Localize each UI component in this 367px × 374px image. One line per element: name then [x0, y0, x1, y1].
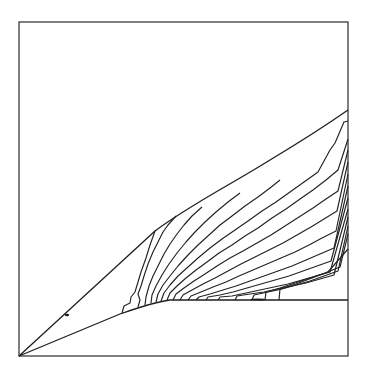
isoline-group [122, 121, 348, 313]
isoline [161, 121, 348, 301]
isoline [206, 198, 348, 300]
isoline [122, 231, 155, 313]
body-surface-line [19, 300, 348, 356]
shock-tick-mark [65, 314, 69, 317]
isoline [196, 186, 348, 300]
plot-frame [19, 22, 348, 356]
isoline [167, 139, 348, 300]
flow-contour-figure [0, 0, 367, 374]
contour-plot-canvas [0, 0, 367, 374]
shock-wave-line [19, 110, 348, 356]
wall-bump-mark [250, 298, 266, 300]
